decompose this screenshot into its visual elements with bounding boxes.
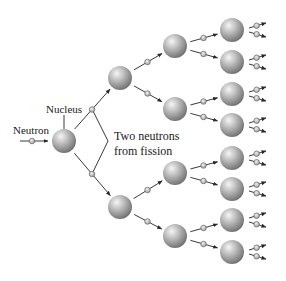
- neutron-icon: [201, 99, 207, 105]
- nucleus-icon: [163, 161, 187, 185]
- neutron-icon: [254, 31, 260, 37]
- neutron-label: Neutron: [13, 124, 50, 136]
- fission-bracket: [92, 109, 108, 174]
- nucleus-icon: [163, 34, 187, 58]
- neutron-icon: [254, 87, 260, 93]
- neutron-icon: [89, 107, 95, 113]
- nucleus-icon: [220, 50, 244, 74]
- neutron-icon: [254, 221, 260, 227]
- neutron-icon: [201, 178, 207, 184]
- neutron-icon: [145, 91, 151, 97]
- fission-label-line1: Two neutrons: [114, 129, 180, 143]
- nucleus-icon: [220, 177, 244, 201]
- nucleus-icon: [220, 113, 244, 137]
- neutron-icon: [29, 138, 35, 144]
- nucleus-icon: [108, 195, 132, 219]
- neutron-icon: [254, 95, 260, 101]
- neutron-icon: [254, 245, 260, 251]
- neutron-icon: [145, 187, 151, 193]
- nucleus-icon: [220, 18, 244, 42]
- neutron-icon: [145, 59, 151, 65]
- fission-label-line2: from fission: [114, 144, 172, 158]
- neutron-icon: [201, 51, 207, 57]
- neutron-icon: [254, 190, 260, 196]
- neutron-icon: [254, 118, 260, 124]
- neutron-icon: [254, 213, 260, 219]
- nucleus-icon: [163, 97, 187, 121]
- nucleus-icon: [220, 240, 244, 264]
- neutron-icon: [89, 171, 95, 177]
- neutron-icon: [254, 63, 260, 69]
- nucleus-label: Nucleus: [46, 103, 82, 115]
- neutron-icon: [254, 23, 260, 29]
- neutron-icon: [201, 225, 207, 231]
- neutron-icon: [201, 35, 207, 41]
- nucleus-icon: [108, 66, 132, 90]
- nucleus-icon: [220, 146, 244, 170]
- neutron-icon: [254, 182, 260, 188]
- nucleus-icon: [163, 224, 187, 248]
- target-nucleus-icon: [52, 129, 76, 153]
- neutron-icon: [145, 219, 151, 225]
- neutron-icon: [254, 55, 260, 61]
- neutron-icon: [201, 114, 207, 120]
- fission-chain-diagram: Neutron Nucleus Two neutrons from fissio…: [0, 0, 286, 281]
- neutron-icon: [254, 126, 260, 132]
- neutron-icon: [201, 163, 207, 169]
- nucleus-icon: [220, 82, 244, 106]
- neutron-icon: [201, 241, 207, 247]
- neutron-icon: [254, 159, 260, 165]
- nucleus-icon: [220, 208, 244, 232]
- neutron-icon: [254, 253, 260, 259]
- neutron-icon: [254, 151, 260, 157]
